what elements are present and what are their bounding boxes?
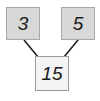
node-right: 5 (61, 7, 95, 40)
node-left-value: 3 (18, 13, 29, 35)
edge-right-to-product (64, 40, 78, 57)
node-product-value: 15 (41, 63, 62, 85)
edge-left-to-product (24, 40, 38, 57)
node-product: 15 (35, 56, 69, 91)
node-left: 3 (6, 7, 40, 40)
node-right-value: 5 (73, 13, 84, 35)
